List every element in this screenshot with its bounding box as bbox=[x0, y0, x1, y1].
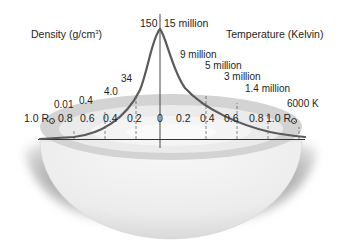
temperature-label-5-million: 5 million bbox=[205, 60, 242, 71]
tick-left-0-4: 0.4 bbox=[103, 112, 118, 124]
temperature-label-6000k: 6000 K bbox=[287, 98, 319, 109]
sun-symbol-icon bbox=[49, 118, 55, 124]
tick-right-0-8: 0.8 bbox=[249, 112, 264, 124]
sun-symbol-icon bbox=[291, 118, 297, 124]
tick-center-0: 0 bbox=[157, 112, 163, 124]
temperature-label-1-4-million: 1.4 million bbox=[245, 83, 290, 94]
temperature-label-3-million: 3 million bbox=[224, 71, 261, 82]
sun-interior-diagram: Density (g/cm3) Temperature (Kelvin) 150… bbox=[0, 0, 341, 241]
temperature-label-9-million: 9 million bbox=[180, 49, 217, 60]
tick-right-1-0: 1.0 R bbox=[266, 112, 297, 124]
density-axis-title: Density (g/cm3) bbox=[31, 29, 102, 40]
density-label-0-4: 0.4 bbox=[79, 95, 93, 106]
tick-left-1-0: 1.0 R bbox=[24, 112, 55, 124]
center-temperature-label: 15 million bbox=[164, 18, 208, 29]
tick-right-0-4: 0.4 bbox=[200, 112, 215, 124]
tick-left-0-8: 0.8 bbox=[58, 112, 73, 124]
tick-right-0-6: 0.6 bbox=[224, 112, 239, 124]
density-label-4: 4.0 bbox=[104, 86, 118, 97]
density-label-0-01: 0.01 bbox=[54, 99, 73, 110]
tick-left-0-6: 0.6 bbox=[80, 112, 95, 124]
tick-left-0-2: 0.2 bbox=[127, 112, 142, 124]
density-label-34: 34 bbox=[121, 73, 132, 84]
temperature-axis-title: Temperature (Kelvin) bbox=[226, 29, 323, 40]
center-density-label: 150 bbox=[140, 18, 158, 29]
tick-right-0-2: 0.2 bbox=[176, 112, 191, 124]
